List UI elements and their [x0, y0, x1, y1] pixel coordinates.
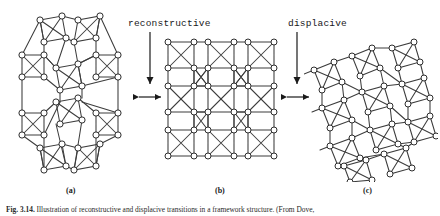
sublabel-c: (c): [363, 186, 372, 195]
caption-text: Illustration of reconstructive and displ…: [37, 205, 315, 214]
panel-a-structure: [4, 8, 136, 182]
label-displacive: displacive: [288, 18, 347, 29]
figure-caption: Fig. 3.14. Illustration of reconstructiv…: [6, 205, 434, 214]
sublabel-a: (a): [66, 186, 75, 195]
panel-b-structure: [164, 38, 282, 180]
figure-container: reconstructive displacive (a) (b) (c) Fi…: [0, 0, 440, 216]
sublabel-b: (b): [215, 186, 225, 195]
panel-c-structure: [304, 34, 438, 182]
label-reconstructive: reconstructive: [128, 18, 211, 29]
caption-prefix: Fig. 3.14.: [6, 205, 35, 214]
